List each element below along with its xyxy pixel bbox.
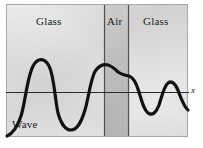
region-label-glass-right: Glass xyxy=(143,15,168,27)
region-label-glass-left: Glass xyxy=(36,15,61,27)
x-axis-label: x xyxy=(191,85,195,95)
region-label-air: Air xyxy=(107,15,122,27)
wave-refraction-figure: Glass Air Glass Wave x xyxy=(0,0,203,148)
wave-label: Wave xyxy=(12,118,38,130)
